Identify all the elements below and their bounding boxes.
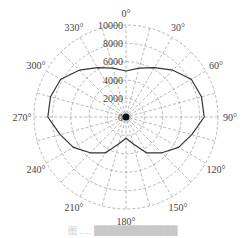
- angle-tick-label: 330°: [65, 22, 84, 33]
- grid-spoke: [130, 118, 215, 141]
- angle-tick-label: 60°: [209, 60, 223, 71]
- radial-tick-label: 2000: [103, 93, 123, 104]
- radial-tick-label: 8000: [103, 38, 123, 49]
- grid-spoke: [127, 28, 150, 113]
- grid-spoke: [128, 37, 172, 113]
- angle-tick-label: 240°: [27, 164, 46, 175]
- grid-spoke: [46, 119, 122, 163]
- angle-tick-label: 0°: [122, 8, 131, 19]
- grid-spoke: [37, 118, 122, 141]
- radial-tick-label: 6000: [103, 56, 123, 67]
- angle-tick-label: 150°: [169, 202, 188, 213]
- angle-tick-label: 120°: [207, 164, 226, 175]
- angle-tick-label: 300°: [27, 60, 46, 71]
- figure-caption: 图 ‥‥ ████████████: [0, 224, 245, 238]
- angle-tick-label: 270°: [13, 112, 32, 123]
- grid-spoke: [129, 120, 191, 182]
- radial-tick-label: 10000: [98, 20, 123, 31]
- center-dot: [123, 114, 130, 121]
- grid-spoke: [129, 119, 205, 163]
- grid-spoke: [129, 71, 205, 115]
- grid-spoke: [102, 121, 125, 206]
- grid-spoke: [128, 120, 172, 196]
- radial-tick-label: 4000: [103, 75, 123, 86]
- polar-chart: 0°30°60°90°120°150°180°210°240°270°300°3…: [0, 0, 245, 238]
- angle-tick-label: 30°: [171, 22, 185, 33]
- angle-tick-label: 90°: [223, 112, 237, 123]
- angle-tick-label: 210°: [65, 202, 84, 213]
- grid-spoke: [129, 52, 191, 114]
- grid-spoke: [80, 120, 124, 196]
- grid-spoke: [127, 121, 150, 206]
- grid-spoke: [61, 120, 123, 182]
- radial-tick-label: 0: [118, 112, 123, 123]
